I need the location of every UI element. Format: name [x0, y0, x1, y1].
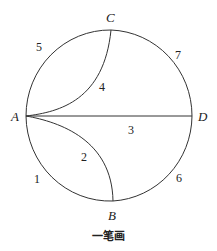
edge-label-5: 5: [36, 40, 42, 54]
one-stroke-diagram: A C D B 1 2 3 4 5 6 7: [0, 0, 217, 251]
edge-7-arc-c-to-d: [111, 30, 192, 116]
vertex-label-a: A: [10, 109, 19, 124]
edge-1-arc-b-to-a: [26, 116, 113, 201]
vertex-label-b: B: [108, 208, 116, 223]
edge-label-6: 6: [176, 171, 182, 185]
edge-6-arc-d-to-b: [113, 116, 192, 201]
edge-2-curve-a-to-b: [26, 116, 113, 201]
vertex-label-c: C: [106, 10, 115, 25]
figure-caption: 一笔画: [0, 227, 217, 243]
edge-label-3: 3: [128, 123, 134, 137]
edge-label-7: 7: [175, 48, 181, 62]
edge-label-2: 2: [81, 150, 87, 164]
vertex-label-d: D: [197, 109, 208, 124]
edge-label-4: 4: [99, 80, 105, 94]
edge-label-1: 1: [34, 172, 40, 186]
